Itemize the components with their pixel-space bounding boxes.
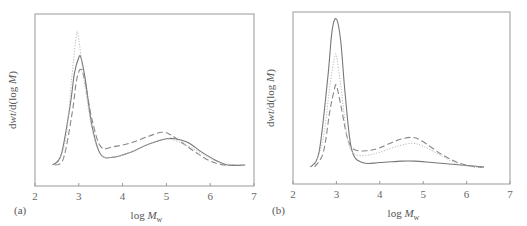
panel-label: (a) (14, 204, 27, 217)
x-tick-label: 7 (251, 190, 257, 202)
series-dotted-line (315, 54, 484, 168)
x-axis-label: log Mw (131, 209, 163, 224)
x-axis-label: log Mw (388, 207, 420, 222)
series-dotted-line (57, 31, 237, 165)
x-tick-label: 3 (76, 190, 82, 202)
y-axis-label: dwt/d(log M) (264, 69, 277, 127)
chart-b-plot: 234567dwt/d(log M)log Mw(b) (258, 0, 527, 226)
x-tick-label: 6 (464, 188, 470, 200)
chart-a-plot: 234567dwt/d(log M)log Mw(a) (0, 0, 262, 226)
x-tick-label: 4 (120, 190, 126, 202)
x-tick-label: 3 (334, 188, 340, 200)
y-axis-label: dwt/d(log M) (6, 71, 19, 129)
chart-panel-a: 234567dwt/d(log M)log Mw(a) (0, 0, 262, 226)
x-tick-label: 7 (507, 188, 513, 200)
chart-panel-b: 234567dwt/d(log M)log Mw(b) (258, 0, 527, 226)
x-tick-label: 5 (420, 188, 426, 200)
x-tick-label: 6 (207, 190, 213, 202)
plot-frame (35, 14, 254, 186)
series-solid-line (310, 19, 484, 167)
series-dashed-line (55, 69, 237, 165)
panel-label: (b) (272, 204, 285, 217)
x-tick-label: 2 (290, 188, 296, 200)
series-dashed-line (315, 85, 484, 168)
x-tick-label: 4 (377, 188, 383, 200)
x-tick-label: 2 (32, 190, 38, 202)
x-tick-label: 5 (164, 190, 170, 202)
series-solid-line (53, 55, 246, 165)
